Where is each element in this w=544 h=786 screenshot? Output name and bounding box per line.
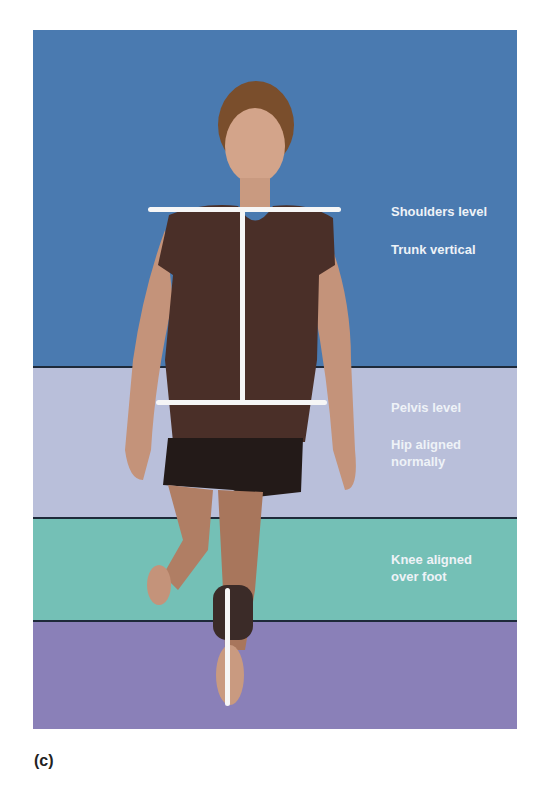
label-knee-line1: Knee aligned (391, 551, 472, 568)
label-trunk-vertical: Trunk vertical (391, 241, 476, 258)
label-hip-line2: normally (391, 453, 461, 470)
posture-figure: Shoulders level Trunk vertical Pelvis le… (33, 30, 517, 729)
label-shoulders-level: Shoulders level (391, 203, 487, 220)
label-knee-aligned: Knee aligned over foot (391, 551, 472, 585)
label-hip-line1: Hip aligned (391, 436, 461, 453)
figure-caption: (c) (34, 752, 54, 770)
label-knee-line2: over foot (391, 568, 472, 585)
label-hip-aligned: Hip aligned normally (391, 436, 461, 470)
pelvis-guide-line (156, 400, 327, 405)
trunk-guide-line (240, 210, 245, 402)
label-pelvis-level: Pelvis level (391, 399, 461, 416)
knee-foot-guide-line (225, 588, 230, 706)
standing-person-illustration (33, 30, 517, 729)
